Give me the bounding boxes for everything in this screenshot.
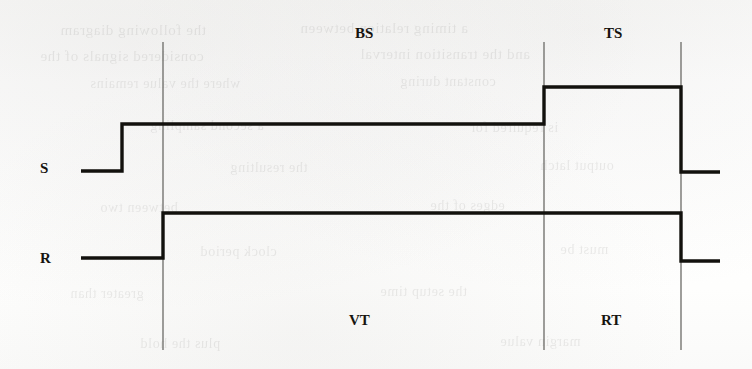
timing-diagram-page: the following diagrama timing relation b… [0, 0, 752, 369]
signal-s-waveform [81, 87, 720, 172]
timing-diagram-canvas [0, 0, 752, 369]
rt-label: RT [601, 313, 621, 328]
waveform-group [81, 87, 720, 261]
s-label: S [40, 161, 48, 176]
r-label: R [40, 251, 51, 266]
ts-label: TS [604, 26, 622, 41]
signal-r-waveform [81, 213, 720, 261]
vt-label: VT [349, 313, 370, 328]
bs-label: BS [355, 26, 373, 41]
